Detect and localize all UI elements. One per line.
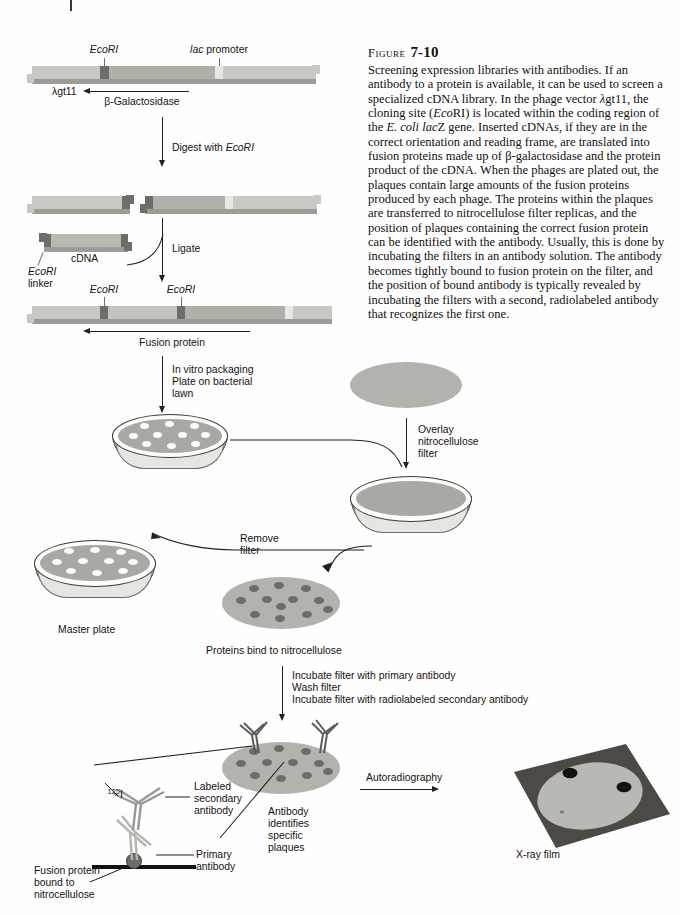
- page-edge-mark: [70, 0, 72, 11]
- plaque: [92, 570, 102, 576]
- iodine-isotope-number: 125: [108, 787, 120, 796]
- packaging-arrow-head: [159, 406, 165, 413]
- master-plate-label: Master plate: [58, 624, 115, 637]
- plaque: [78, 558, 88, 564]
- fusion-protein-label: Fusion protein: [139, 337, 205, 350]
- labeled-secondary-antibody-line3: antibody: [194, 805, 233, 818]
- packaging-step-line2: Plate on bacterial: [172, 376, 252, 389]
- plaque: [165, 421, 174, 427]
- proteins-bind-label: Proteins bind to nitrocellulose: [206, 645, 342, 658]
- protein-spot: [249, 585, 259, 592]
- incubate-step-line3: Incubate filter with radiolabeled second…: [292, 694, 528, 707]
- protein-spot: [275, 615, 285, 622]
- packaging-step-line3: lawn: [172, 388, 193, 401]
- plaque: [201, 432, 210, 438]
- spotted-nitrocellulose-filter: [222, 577, 340, 629]
- recombinant-ecori-right-label: EcoRI: [167, 284, 195, 297]
- protein-spot: [288, 596, 298, 603]
- blank-nitrocellulose-filter: [350, 362, 462, 408]
- protein-spot: [262, 596, 272, 603]
- protein-spot: [314, 597, 324, 604]
- incubate-arrow-line: [282, 666, 283, 716]
- plaque: [104, 558, 114, 564]
- cdna-shadow: [44, 247, 128, 252]
- figure-caption-text: Screening expression libraries with anti…: [368, 63, 668, 321]
- digest-arrow-head: [159, 160, 165, 167]
- fusion-protein-bound-line2: bound to: [34, 877, 74, 890]
- right-arm-bar: [145, 196, 317, 211]
- galactosidase-arrow-head: [83, 88, 90, 94]
- overlay-step-line1: Overlay: [418, 424, 454, 437]
- vector-bar: [32, 66, 316, 81]
- autoradiography-step-label: Autoradiography: [366, 772, 442, 785]
- left-arm-shadow: [32, 209, 130, 214]
- recombinant-shadow: [32, 319, 332, 324]
- figure-label-word: Figure: [368, 46, 405, 60]
- recombinant-ecori-left-label: EcoRI: [90, 284, 118, 297]
- ligate-connector-curve: [126, 232, 168, 266]
- recombinant-ecori-left-leader: [104, 297, 105, 306]
- autoradiography-arrow-head: [432, 786, 439, 792]
- plaque: [128, 559, 138, 565]
- galactosidase-arrow-line: [90, 91, 189, 92]
- protein-spot: [274, 582, 284, 589]
- digest-arrow-line: [162, 117, 163, 162]
- antibody-identifies-line4: plaques: [268, 842, 304, 855]
- ligate-arrow-head: [159, 275, 165, 282]
- digest-step-label: Digest with EcoRI: [172, 142, 254, 155]
- protein-spot: [323, 768, 333, 775]
- master-plate-dish: [34, 540, 160, 616]
- ecori-linker-leader: [37, 252, 43, 265]
- plaque: [191, 441, 200, 447]
- figure-7-10: Figure7-10 Screening expression librarie…: [0, 0, 680, 915]
- protein-spot: [301, 585, 311, 592]
- vector-right-notch: [312, 65, 320, 74]
- protein-spot: [250, 611, 260, 618]
- overlay-step-line3: filter: [418, 448, 438, 461]
- ecori-linker-label-line1: EcoRI: [28, 266, 56, 279]
- incubate-arrow-head: [279, 714, 285, 721]
- left-arm-bar: [32, 196, 130, 211]
- incubate-step-line2: Wash filter: [292, 682, 341, 695]
- plaque: [52, 559, 62, 565]
- plaque: [66, 568, 76, 574]
- figure-number: 7-10: [410, 44, 438, 60]
- plaque: [116, 549, 126, 555]
- primary-antibody-line1: Primary: [196, 849, 232, 862]
- labeled-secondary-antibody-line1: Labeled: [194, 781, 231, 794]
- plaque: [153, 432, 162, 438]
- labeled-secondary-antibody-line2: secondary: [194, 793, 242, 806]
- protein-spot: [314, 760, 324, 767]
- right-arm-sticky-end: [140, 204, 147, 213]
- right-arm-right-notch: [313, 195, 321, 204]
- plaque: [64, 548, 74, 554]
- plaque: [129, 433, 138, 439]
- protein-spot: [302, 772, 312, 779]
- plaque: [140, 423, 149, 429]
- cdna-left-sticky-end: [39, 233, 47, 242]
- ligate-step-label: Ligate: [172, 243, 200, 256]
- recombinant-bar: [32, 306, 332, 321]
- figure-caption: Figure7-10 Screening expression librarie…: [368, 44, 668, 321]
- iodine-element-symbol: I: [120, 789, 123, 800]
- dish-to-spotted-filter-connector: [288, 528, 374, 580]
- fusion-protein-arrow-head: [83, 328, 90, 334]
- incubate-step-line1: Incubate filter with primary antibody: [292, 670, 455, 683]
- vector-lac-promoter-label: lac promoter: [190, 44, 248, 57]
- figure-caption-heading: Figure7-10: [368, 44, 668, 61]
- digest-step-enzyme: EcoRI: [226, 142, 254, 153]
- cdna-bar: [44, 234, 128, 249]
- recombinant-left-notch: [27, 314, 34, 323]
- autoradiography-arrow-line: [360, 789, 434, 790]
- plate-to-overlay-connector: [230, 434, 410, 474]
- right-arm-shadow: [145, 209, 317, 214]
- iodine-125-label: 125I: [96, 773, 123, 814]
- dish-with-filter-surface: [356, 481, 466, 516]
- plaque: [118, 568, 128, 574]
- plaque: [178, 432, 187, 438]
- x-ray-film-label: X-ray film: [516, 849, 560, 862]
- vector-gene-label: β-Galactosidase: [104, 96, 179, 109]
- x-ray-film: [478, 742, 674, 862]
- protein-spot: [323, 606, 333, 613]
- protein-spot: [288, 759, 298, 766]
